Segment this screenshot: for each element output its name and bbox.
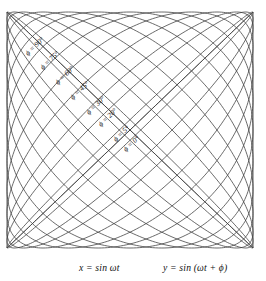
lissajous-figure: ϕ = 90°ϕ = 75°ϕ = 60°ϕ = 45°ϕ = 30°ϕ = 2… bbox=[0, 0, 266, 281]
lissajous-plot-area: ϕ = 90°ϕ = 75°ϕ = 60°ϕ = 45°ϕ = 30°ϕ = 2… bbox=[0, 0, 266, 281]
y-axis-caption: y = sin (ωt + ϕ) bbox=[163, 262, 227, 273]
phase-label-phi-20: ϕ = 20° bbox=[96, 106, 119, 128]
x-axis-caption: x = sin ωt bbox=[79, 262, 120, 273]
phase-label-phi-45: ϕ = 45° bbox=[68, 79, 91, 101]
